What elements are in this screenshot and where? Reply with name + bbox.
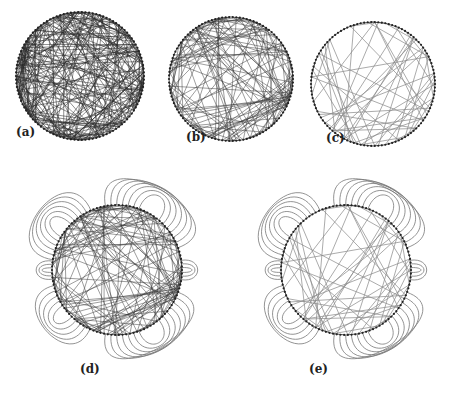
bundled-graph-panel-e <box>258 179 426 359</box>
bundled-graph-panel-d <box>29 179 197 359</box>
panel-label-c: (c) <box>326 131 345 145</box>
graph-layout-figure <box>0 0 460 396</box>
panel-label-b: (b) <box>186 130 206 144</box>
circular-graph-panel-b <box>168 16 294 142</box>
panel-label-a: (a) <box>16 125 35 139</box>
panel-label-d: (d) <box>80 362 100 376</box>
panel-label-e: (e) <box>309 362 328 376</box>
circular-graph-panel-a <box>15 11 145 141</box>
circular-graph-panel-c <box>310 21 436 147</box>
